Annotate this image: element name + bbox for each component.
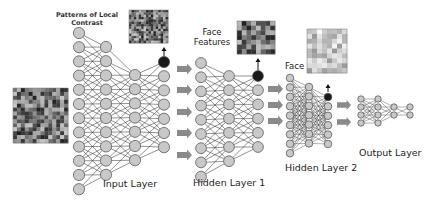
neuron — [73, 56, 84, 67]
neuron — [324, 131, 332, 139]
face-features-label-line2: Features — [190, 37, 234, 47]
neuron — [253, 127, 264, 138]
neural-network-diagram: Patterns of Local Contrast Face Features… — [0, 0, 427, 205]
right-arrow-icon — [177, 85, 192, 96]
neuron — [224, 156, 235, 167]
neuron — [196, 86, 207, 97]
neuron — [129, 84, 140, 95]
neuron — [305, 111, 313, 119]
neuron — [286, 112, 294, 120]
neuron — [196, 129, 207, 140]
neuron — [100, 41, 111, 52]
active-neuron — [324, 93, 332, 101]
neuron — [129, 155, 140, 166]
neuron — [224, 113, 235, 124]
neuron — [305, 83, 313, 91]
input-face-collage-image — [13, 88, 68, 143]
neuron — [224, 71, 235, 82]
neuron — [129, 69, 140, 80]
neuron — [305, 140, 313, 148]
neuron — [100, 155, 111, 166]
neuron — [100, 112, 111, 123]
neuron — [253, 99, 264, 110]
right-arrow-icon — [177, 107, 192, 118]
neuron — [73, 155, 84, 166]
neuron — [286, 93, 294, 101]
right-arrow-icon — [337, 117, 351, 127]
neuron — [375, 96, 381, 102]
neuron — [286, 102, 294, 110]
active-neuron — [253, 71, 264, 82]
local-contrast-label: Patterns of Local Contrast — [44, 11, 130, 27]
neuron — [375, 120, 381, 126]
neuron — [73, 42, 84, 53]
neuron — [158, 71, 169, 82]
neuron — [324, 121, 332, 129]
neuron — [73, 184, 84, 195]
right-arrow-icon — [268, 84, 283, 95]
up-arrow-icon — [256, 58, 261, 62]
right-arrow-icon — [177, 128, 192, 139]
neuron — [253, 85, 264, 96]
neuron — [158, 99, 169, 110]
neuron — [196, 157, 207, 168]
neuron — [224, 127, 235, 138]
neuron — [286, 149, 294, 157]
neuron — [224, 142, 235, 153]
neuron — [100, 56, 111, 67]
neuron — [129, 98, 140, 109]
neuron — [305, 130, 313, 138]
neuron — [73, 113, 84, 124]
local-contrast-label-line2: Contrast — [44, 19, 130, 27]
neuron — [358, 104, 364, 110]
face-features-label-line1: Face — [190, 27, 234, 37]
neuron — [73, 27, 84, 38]
up-arrow-icon — [326, 84, 331, 88]
neuron — [129, 126, 140, 137]
face-label: Face — [285, 61, 304, 71]
neuron — [286, 131, 294, 139]
right-arrow-icon — [268, 116, 283, 127]
neuron — [73, 141, 84, 152]
neuron — [391, 112, 397, 118]
right-arrow-icon — [268, 100, 283, 111]
neuron — [407, 104, 413, 110]
neuron — [100, 70, 111, 81]
local-contrast-image — [129, 10, 168, 43]
neuron — [100, 98, 111, 109]
neuron — [73, 127, 84, 138]
neuron — [100, 84, 111, 95]
right-arrow-icon — [177, 150, 192, 161]
neuron — [358, 96, 364, 102]
neuron — [324, 140, 332, 148]
output-layer-label: Output Layer — [359, 147, 422, 158]
neuron — [73, 169, 84, 180]
neuron — [196, 72, 207, 83]
neuron — [375, 104, 381, 110]
neuron — [253, 142, 264, 153]
up-arrow-icon — [162, 47, 167, 51]
local-contrast-label-line1: Patterns of Local — [44, 11, 130, 19]
right-arrow-icon — [337, 100, 351, 110]
hidden-layer-1-label: Hidden Layer 1 — [193, 177, 265, 188]
neuron — [129, 112, 140, 123]
neuron — [358, 112, 364, 118]
neuron — [73, 84, 84, 95]
neuron — [158, 113, 169, 124]
neuron — [286, 121, 294, 129]
right-arrow-icon — [177, 64, 192, 75]
input-layer-label: Input Layer — [103, 178, 157, 189]
neuron — [129, 140, 140, 151]
neuron — [224, 99, 235, 110]
neuron — [196, 58, 207, 69]
neuron — [73, 98, 84, 109]
neuron — [305, 93, 313, 101]
neuron — [100, 141, 111, 152]
hidden-layer-2-label: Hidden Layer 2 — [285, 162, 357, 173]
neuron — [100, 127, 111, 138]
neuron — [224, 85, 235, 96]
neuron — [253, 113, 264, 124]
neuron — [158, 127, 169, 138]
neuron — [196, 114, 207, 125]
face-image — [307, 29, 347, 73]
